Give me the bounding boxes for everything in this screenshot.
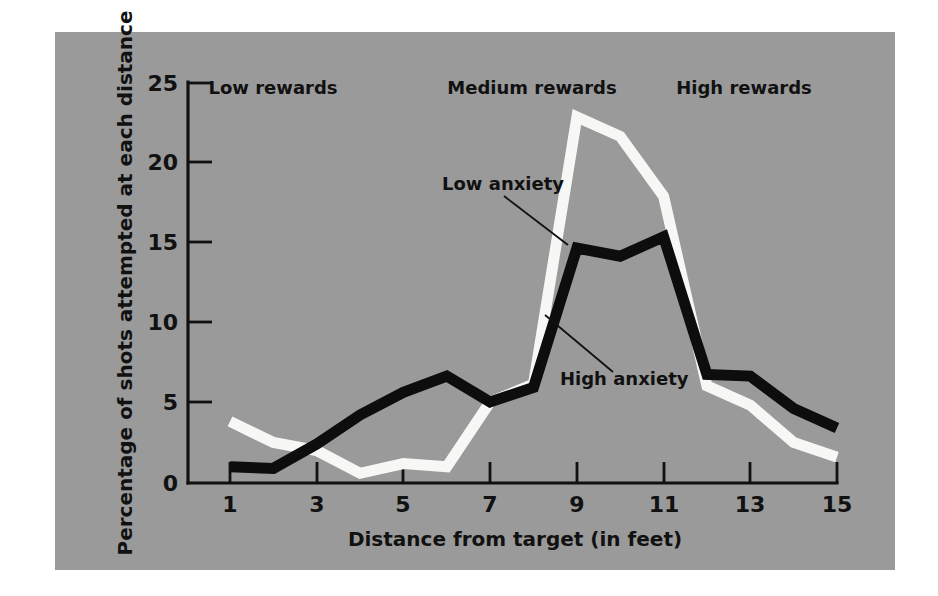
x-tick-label-7: 7	[482, 492, 497, 517]
x-tick-label-13: 13	[735, 492, 766, 517]
y-axis-title: Percentage of shots attempted at each di…	[113, 10, 137, 555]
leader-line-high-anxiety	[545, 315, 613, 372]
y-tick-label-20: 20	[147, 150, 178, 175]
y-tick-label-15: 15	[147, 230, 178, 255]
region-label-low-rewards: Low rewards	[208, 77, 337, 98]
y-axis-ticks	[188, 83, 212, 402]
x-tick-label-15: 15	[822, 492, 853, 517]
series-line-low-anxiety	[230, 117, 837, 473]
x-axis-title: Distance from target (in feet)	[348, 527, 682, 551]
figure-container: 25 20 15 10 5 0 1 3 5 7 9 11 13 15	[0, 0, 938, 596]
series-annotation-low-anxiety: Low anxiety	[442, 173, 564, 194]
series-annotation-high-anxiety: High anxiety	[560, 368, 689, 389]
x-tick-label-5: 5	[395, 492, 410, 517]
x-tick-label-3: 3	[309, 492, 324, 517]
x-axis-tick-labels: 1 3 5 7 9 11 13 15	[222, 492, 852, 517]
y-axis-tick-labels: 25 20 15 10 5 0	[147, 71, 178, 496]
x-tick-label-11: 11	[649, 492, 680, 517]
region-label-medium-rewards: Medium rewards	[447, 77, 616, 98]
x-tick-label-1: 1	[222, 492, 237, 517]
region-label-high-rewards: High rewards	[676, 77, 812, 98]
x-tick-label-9: 9	[569, 492, 584, 517]
y-tick-label-10: 10	[147, 310, 178, 335]
line-chart: 25 20 15 10 5 0 1 3 5 7 9 11 13 15	[0, 0, 938, 596]
y-tick-label-25: 25	[147, 71, 178, 96]
y-tick-label-0: 0	[163, 471, 178, 496]
y-tick-label-5: 5	[163, 390, 178, 415]
x-axis-ticks	[230, 462, 837, 483]
